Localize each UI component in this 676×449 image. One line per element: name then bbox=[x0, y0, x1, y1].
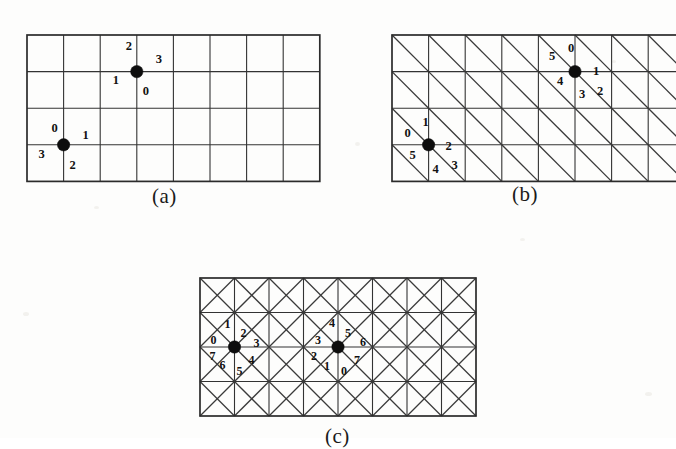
direction-label-5: 5 bbox=[345, 326, 351, 340]
direction-label-5: 5 bbox=[237, 364, 243, 378]
direction-label-7: 7 bbox=[210, 349, 216, 363]
direction-label-6: 6 bbox=[360, 335, 366, 349]
caption-panel-c: (c) bbox=[325, 424, 350, 449]
direction-label-4: 4 bbox=[329, 316, 335, 330]
caption-panel-a: (a) bbox=[152, 184, 177, 209]
direction-label-2: 2 bbox=[241, 326, 247, 340]
vertex-dot bbox=[332, 341, 344, 353]
direction-label-3: 3 bbox=[254, 336, 260, 350]
direction-label-4: 4 bbox=[249, 353, 255, 367]
vertex-dot bbox=[228, 341, 240, 353]
direction-label-7: 7 bbox=[354, 353, 360, 367]
direction-label-2: 2 bbox=[311, 349, 317, 363]
direction-label-1: 1 bbox=[324, 359, 330, 373]
direction-label-0: 0 bbox=[211, 333, 217, 347]
caption-panel-b: (b) bbox=[512, 182, 538, 207]
direction-label-1: 1 bbox=[225, 317, 231, 331]
direction-label-3: 3 bbox=[315, 333, 321, 347]
direction-label-6: 6 bbox=[220, 358, 226, 372]
direction-label-0: 0 bbox=[341, 364, 347, 378]
